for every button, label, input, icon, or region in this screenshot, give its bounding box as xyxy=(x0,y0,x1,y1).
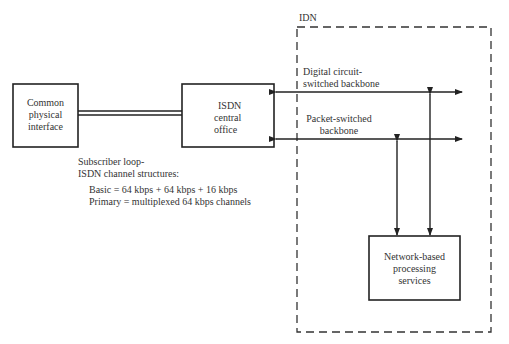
idn-label: IDN xyxy=(299,12,317,24)
diagram-canvas xyxy=(0,0,509,344)
isdn-office-line-3: office xyxy=(214,124,241,136)
subscriber-loop-title-1: Subscriber loop- xyxy=(78,156,251,168)
network-services-line-1: Network-based xyxy=(369,251,460,263)
subscriber-loop-caption: Subscriber loop- ISDN channel structures… xyxy=(78,156,251,208)
packet-backbone-line-2: backbone xyxy=(301,125,377,137)
common-interface-line-1: Common xyxy=(13,97,78,109)
network-services-label: Network-based processing services xyxy=(369,251,460,287)
circuit-backbone-line-1: Digital circuit- xyxy=(303,66,379,78)
network-services-line-2: processing xyxy=(369,263,460,275)
subscriber-loop-title-2: ISDN channel structures: xyxy=(78,168,251,180)
common-interface-line-2: physical xyxy=(13,109,78,121)
basic-rate-text: Basic = 64 kbps + 64 kbps + 16 kbps xyxy=(89,184,251,196)
circuit-backbone-line-2: switched backbone xyxy=(303,78,379,90)
network-services-line-3: services xyxy=(369,275,460,287)
common-interface-line-3: interface xyxy=(13,121,78,133)
isdn-office-line-1: ISDN xyxy=(214,100,241,112)
primary-rate-text: Primary = multiplexed 64 kbps channels xyxy=(89,196,251,208)
circuit-backbone-label: Digital circuit- switched backbone xyxy=(303,66,379,90)
isdn-office-line-2: central xyxy=(214,112,241,124)
common-interface-label: Common physical interface xyxy=(13,97,78,133)
packet-backbone-line-1: Packet-switched xyxy=(301,113,377,125)
packet-backbone-label: Packet-switched backbone xyxy=(301,113,377,137)
isdn-office-label: ISDN central office xyxy=(214,100,241,136)
